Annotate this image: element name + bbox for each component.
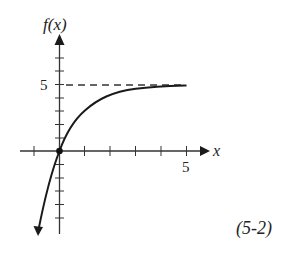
curve-arrow-icon <box>34 226 44 236</box>
function-graph: f(x) x 5 5 (5-2) <box>0 0 301 258</box>
x-tick-label-5: 5 <box>182 159 190 175</box>
figure-number: (5-2) <box>236 218 272 239</box>
y-axis-arrow-icon <box>55 34 65 45</box>
x-axis-label: x <box>212 142 220 159</box>
x-axis <box>20 146 210 156</box>
x-axis-arrow-icon <box>200 146 210 156</box>
y-axis-label: f(x) <box>43 15 67 34</box>
origin-point <box>56 148 63 155</box>
y-tick-label-5: 5 <box>40 77 48 93</box>
function-curve <box>38 86 186 231</box>
y-axis <box>55 34 65 234</box>
